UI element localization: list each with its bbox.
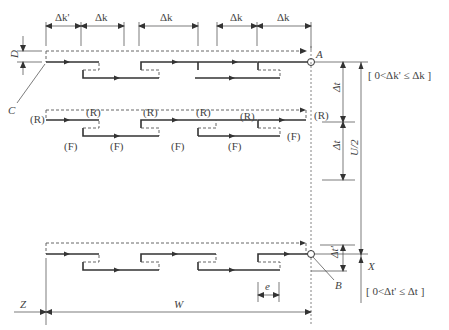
leader-c <box>17 64 45 103</box>
marker-r-4: (R) <box>196 106 211 119</box>
marker-f-4: (F) <box>228 140 242 153</box>
label-a: A <box>315 48 323 60</box>
scan-path-diagram: Δk' Δk Δk Δk Δk D C A <box>0 0 449 330</box>
point-b-marker <box>308 251 315 258</box>
row-1-path <box>46 51 311 81</box>
marker-r-3: (R) <box>143 106 158 119</box>
label-u-half: U/2 <box>348 139 360 156</box>
marker-f-3: (F) <box>171 140 185 153</box>
constraint-k: [ 0<Δk' ≤ Δk ] <box>368 69 431 81</box>
dim-delta-k-2: Δk <box>160 11 173 23</box>
right-dimensions: Δt Δt U/2 [ 0<Δk' ≤ Δk ] <box>322 62 431 256</box>
constraint-t: [ 0<Δt' ≤ Δt ] <box>366 285 424 297</box>
diagram-canvas: Δk' Δk Δk Δk Δk D C A <box>0 0 449 330</box>
row-2-markers: (R) (R) (R) (R) (R) (R) (F) (F) (F) (F) … <box>30 106 329 153</box>
marker-r-1: (R) <box>30 113 45 126</box>
label-c: C <box>8 104 16 116</box>
row-bottom-path <box>46 241 311 273</box>
marker-f-1: (F) <box>64 140 78 153</box>
marker-f-5: (F) <box>287 130 301 143</box>
dim-delta-k-1: Δk <box>95 11 108 23</box>
label-d: D <box>8 50 20 59</box>
e-dimension: e <box>258 280 279 302</box>
label-delta-t-1: Δt <box>330 82 342 93</box>
label-w: W <box>174 298 184 310</box>
bottom-right-dimensions: Δt' X [ 0<Δt' ≤ Δt ] <box>311 245 424 303</box>
label-b: B <box>335 279 342 291</box>
leader-b <box>313 257 334 280</box>
marker-r-5: (R) <box>240 110 255 123</box>
dim-delta-k-prime: Δk' <box>55 11 70 23</box>
marker-f-2: (F) <box>110 140 124 153</box>
marker-r-2: (R) <box>86 106 101 119</box>
label-z: Z <box>20 298 27 310</box>
top-dimension-chain: Δk' Δk Δk Δk Δk <box>46 11 311 50</box>
label-delta-t-prime: Δt' <box>328 245 340 259</box>
marker-r-6: (R) <box>314 109 329 122</box>
dim-delta-k-3: Δk <box>230 11 243 23</box>
label-e: e <box>265 280 270 292</box>
dim-delta-k-4: Δk <box>277 11 290 23</box>
label-x: X <box>367 260 376 272</box>
row-2-path <box>46 108 306 139</box>
d-dimension: D <box>8 36 42 75</box>
label-delta-t-2: Δt <box>330 140 342 151</box>
